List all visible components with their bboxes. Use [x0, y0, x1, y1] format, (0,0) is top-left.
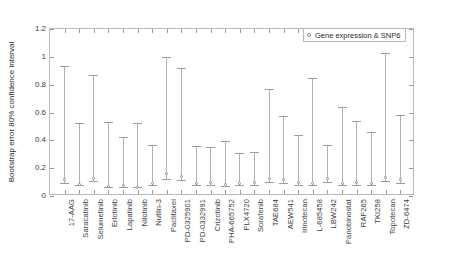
error-bar-upper-cap — [265, 89, 274, 90]
error-bar-upper-cap — [352, 121, 361, 122]
error-bar-lower-cap — [367, 185, 376, 186]
error-bar-lower-cap — [396, 183, 405, 184]
data-point-marker — [122, 184, 125, 187]
error-bar-lower-cap — [60, 183, 69, 184]
y-tick-label: 0.8 — [35, 79, 46, 88]
x-tick-label: Panobinostat — [344, 199, 353, 244]
x-tick-mark — [108, 190, 109, 194]
x-tick-label: PD-0332991 — [198, 199, 207, 242]
x-tick-label: ZD-6474 — [402, 199, 411, 229]
error-bar-lower-cap — [323, 182, 332, 183]
data-point-marker — [355, 181, 358, 184]
error-bar-lower-cap — [148, 185, 157, 186]
legend[interactable]: Gene expression & SNP6 — [303, 28, 406, 42]
error-bar-upper-cap — [323, 145, 332, 146]
data-point-marker — [165, 172, 168, 175]
error-bar-stem — [108, 123, 109, 188]
data-point-marker — [326, 177, 329, 180]
plot-area — [49, 28, 414, 195]
y-tick-label: 1 — [42, 51, 46, 60]
error-bar-stem — [342, 108, 343, 186]
error-bar-upper-cap — [133, 123, 142, 124]
error-bar-stem — [93, 76, 94, 182]
error-bar-stem — [400, 116, 401, 183]
data-point-marker — [268, 177, 271, 180]
error-bar-upper-cap — [60, 66, 69, 67]
error-bar-upper-cap — [250, 152, 259, 153]
x-tick-mark — [181, 29, 182, 33]
y-tick-mark — [50, 29, 54, 30]
error-bar-lower-cap — [192, 185, 201, 186]
figure-canvas: Bootstrap error 80% confidence interval … — [0, 0, 459, 260]
error-bar-lower-cap — [119, 187, 128, 188]
error-bar-lower-cap — [294, 185, 303, 186]
error-bar-lower-cap — [279, 183, 288, 184]
y-tick-mark — [50, 85, 54, 86]
error-bar-stem — [269, 90, 270, 183]
x-tick-mark — [327, 190, 328, 194]
error-bar-upper-cap — [338, 107, 347, 108]
x-tick-mark — [138, 190, 139, 194]
y-tick-mark — [409, 140, 413, 141]
x-tick-label: Lapatinib — [125, 199, 134, 230]
error-bar-upper-cap — [367, 132, 376, 133]
x-tick-mark — [211, 29, 212, 33]
x-tick-mark — [167, 190, 168, 194]
error-bar-upper-cap — [206, 147, 215, 148]
error-bar-stem — [166, 58, 167, 180]
data-point-marker — [341, 182, 344, 185]
error-bar-stem — [196, 147, 197, 186]
x-tick-label: Nutlin-3 — [154, 199, 163, 226]
open-circle-icon — [307, 33, 311, 37]
error-bar-stem — [371, 133, 372, 186]
y-tick-mark — [409, 85, 413, 86]
x-tick-mark — [167, 29, 168, 33]
data-point-marker — [195, 182, 198, 185]
error-bar-lower-cap — [265, 182, 274, 183]
data-point-marker — [224, 183, 227, 186]
x-tick-mark — [65, 29, 66, 33]
x-tick-label: AEW541 — [286, 199, 295, 229]
error-bar-lower-cap — [177, 180, 186, 181]
error-bar-upper-cap — [381, 53, 390, 54]
y-tick-mark — [409, 113, 413, 114]
x-tick-mark — [225, 190, 226, 194]
error-bar-stem — [137, 124, 138, 188]
y-tick-label: 0.2 — [35, 163, 46, 172]
data-point-marker — [370, 182, 373, 185]
x-tick-label: PHA-665752 — [227, 199, 236, 243]
x-tick-mark — [371, 190, 372, 194]
error-bar-stem — [210, 148, 211, 186]
x-tick-mark — [357, 190, 358, 194]
x-tick-label: Selumetinib — [96, 199, 105, 239]
x-tick-label: Nilotinib — [140, 199, 149, 227]
x-tick-label: Erlotinib — [110, 199, 119, 227]
y-tick-mark — [50, 57, 54, 58]
error-bar-lower-cap — [89, 181, 98, 182]
x-tick-mark — [138, 29, 139, 33]
data-point-marker — [136, 186, 139, 189]
x-tick-mark — [123, 29, 124, 33]
x-tick-mark — [225, 29, 226, 33]
x-tick-label: RAF265 — [359, 199, 368, 227]
x-tick-mark — [196, 190, 197, 194]
error-bar-upper-cap — [192, 146, 201, 147]
x-tick-label: Irinotecan — [300, 199, 309, 233]
x-axis-tick-labels: 17-AAGSaracatinibSelumetinibErlotinibLap… — [49, 196, 414, 260]
x-tick-mark — [269, 29, 270, 33]
error-bar-stem — [298, 136, 299, 186]
error-bar-upper-cap — [104, 122, 113, 123]
x-tick-mark — [79, 29, 80, 33]
data-point-marker — [399, 178, 402, 181]
x-tick-mark — [284, 29, 285, 33]
error-bar-stem — [123, 138, 124, 188]
error-bar-stem — [64, 67, 65, 185]
x-tick-mark — [196, 29, 197, 33]
x-tick-label: PD-0325901 — [183, 199, 192, 242]
x-tick-mark — [240, 29, 241, 33]
x-tick-mark — [123, 190, 124, 194]
x-tick-mark — [108, 29, 109, 33]
x-tick-mark — [94, 190, 95, 194]
data-point-marker — [180, 175, 183, 178]
x-tick-mark — [79, 190, 80, 194]
